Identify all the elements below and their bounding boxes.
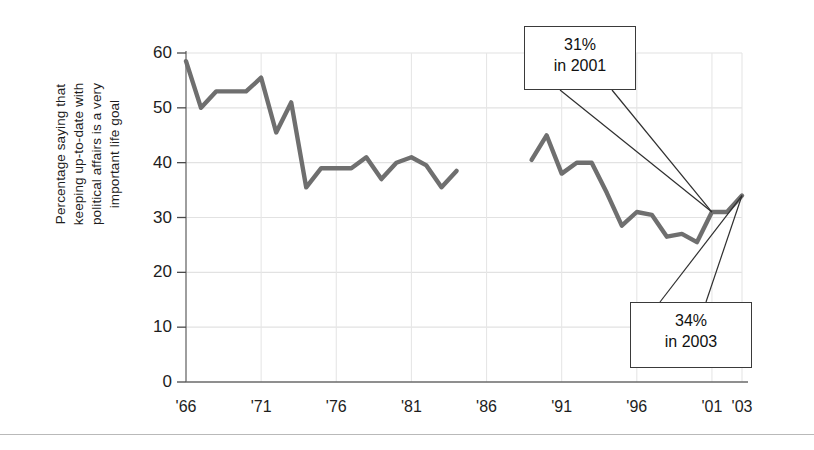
x-tick-81: '81	[401, 398, 422, 416]
x-tick-66: '66	[176, 398, 197, 416]
y-tick-60: 60	[138, 43, 172, 63]
y-tick-20: 20	[138, 262, 172, 282]
y-tick-50: 50	[138, 98, 172, 118]
footer-divider	[0, 434, 814, 435]
callout-2003-value: 34%	[641, 310, 741, 331]
x-tick-86: '86	[476, 398, 497, 416]
data-line-segment-1	[186, 61, 457, 187]
callout-2001-year: in 2001	[535, 55, 625, 76]
y-tick-30: 30	[138, 208, 172, 228]
x-tick-71: '71	[251, 398, 272, 416]
chart-figure: Percentage saying that keeping up-to-dat…	[0, 0, 814, 450]
x-tick-91: '91	[551, 398, 572, 416]
y-tick-10: 10	[138, 317, 172, 337]
x-tick-96: '96	[626, 398, 647, 416]
y-axis-label: Percentage saying that keeping up-to-dat…	[52, 4, 124, 304]
callout-2001: 31% in 2001	[524, 26, 636, 90]
y-tick-40: 40	[138, 153, 172, 173]
callout-2003-pointer	[660, 196, 742, 302]
x-tick-03: '03	[732, 398, 753, 416]
callout-2003-year: in 2003	[641, 331, 741, 352]
x-tick-01: '01	[702, 398, 723, 416]
x-tick-76: '76	[326, 398, 347, 416]
callout-2003: 34% in 2003	[630, 302, 752, 368]
callout-2001-value: 31%	[535, 34, 625, 55]
y-tick-0: 0	[138, 372, 172, 392]
